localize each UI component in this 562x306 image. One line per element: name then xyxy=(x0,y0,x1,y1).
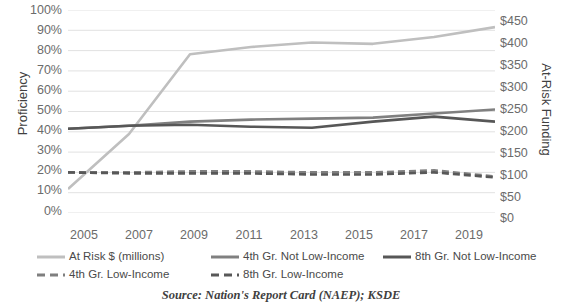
series-lines xyxy=(68,27,495,189)
legend-swatch-g8-not-low xyxy=(382,251,412,262)
left-tick-30: 30% xyxy=(16,143,62,157)
left-tick-100: 100% xyxy=(16,3,62,17)
right-tick-350: $350 xyxy=(500,58,552,72)
right-tick-100: $100 xyxy=(500,168,552,182)
left-tick-80: 80% xyxy=(16,43,62,57)
chart-legend: At Risk $ (millions) 4th Gr. Not Low-Inc… xyxy=(0,250,562,286)
left-tick-20: 20% xyxy=(16,163,62,177)
x-tick-2009: 2009 xyxy=(169,228,219,242)
legend-item-at-risk[interactable]: At Risk $ (millions) xyxy=(36,250,164,262)
x-tick-2007: 2007 xyxy=(114,228,164,242)
legend-label-g4-not-low: 4th Gr. Not Low-Income xyxy=(243,250,364,262)
left-tick-0: 0% xyxy=(16,204,62,218)
source-note: Source: Nation's Report Card (NAEP); KSD… xyxy=(0,288,562,303)
series-line xyxy=(68,172,495,177)
left-tick-50: 50% xyxy=(16,103,62,117)
legend-item-g8-not-low[interactable]: 8th Gr. Not Low-Income xyxy=(382,250,536,262)
legend-item-g4-not-low[interactable]: 4th Gr. Not Low-Income xyxy=(210,250,364,262)
legend-item-g8-low[interactable]: 8th Gr. Low-Income xyxy=(210,268,343,280)
series-line xyxy=(68,27,495,189)
x-tick-2013: 2013 xyxy=(279,228,329,242)
legend-label-g8-low: 8th Gr. Low-Income xyxy=(243,268,343,280)
chart-title-clipped xyxy=(0,0,562,8)
x-tick-2011: 2011 xyxy=(224,228,274,242)
right-tick-300: $300 xyxy=(500,80,552,94)
x-tick-2017: 2017 xyxy=(389,228,439,242)
legend-swatch-g4-low xyxy=(36,269,66,280)
left-tick-10: 10% xyxy=(16,183,62,197)
right-tick-200: $200 xyxy=(500,124,552,138)
gridlines xyxy=(68,10,495,213)
legend-label-g8-not-low: 8th Gr. Not Low-Income xyxy=(415,250,536,262)
right-tick-450: $450 xyxy=(500,14,552,28)
left-tick-90: 90% xyxy=(16,23,62,37)
right-tick-50: $50 xyxy=(500,190,552,204)
x-tick-2019: 2019 xyxy=(444,228,494,242)
right-tick-250: $250 xyxy=(500,102,552,116)
right-tick-0: $0 xyxy=(500,211,552,225)
left-tick-70: 70% xyxy=(16,63,62,77)
legend-swatch-at-risk xyxy=(36,251,66,262)
legend-swatch-g8-low xyxy=(210,269,240,280)
legend-label-g4-low: 4th Gr. Low-Income xyxy=(69,268,169,280)
left-tick-40: 40% xyxy=(16,123,62,137)
legend-item-g4-low[interactable]: 4th Gr. Low-Income xyxy=(36,268,169,280)
left-tick-60: 60% xyxy=(16,83,62,97)
x-tick-2015: 2015 xyxy=(334,228,384,242)
right-tick-400: $400 xyxy=(500,36,552,50)
x-tick-2005: 2005 xyxy=(59,228,109,242)
legend-label-at-risk: At Risk $ (millions) xyxy=(69,250,164,262)
plot-area xyxy=(68,10,495,213)
chart-container: Proficiency At-Risk Funding 100% 90% 80%… xyxy=(0,0,562,306)
right-tick-150: $150 xyxy=(500,146,552,160)
legend-swatch-g4-not-low xyxy=(210,251,240,262)
